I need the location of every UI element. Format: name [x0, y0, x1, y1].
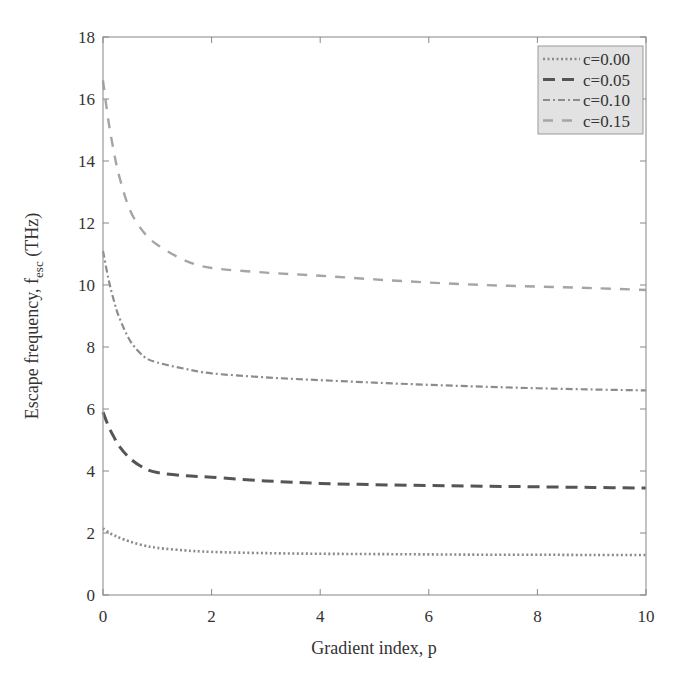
y-tick-label: 16: [78, 90, 95, 109]
legend-label: c=0.15: [583, 112, 630, 131]
line-chart: 0246810024681012141618 c=0.00c=0.05c=0.1…: [0, 0, 688, 682]
series-layer: [103, 80, 646, 555]
series-line-c-0-05: [103, 412, 646, 488]
series-line-c-0-10: [103, 251, 646, 391]
y-tick-label: 0: [87, 586, 96, 605]
legend: c=0.00c=0.05c=0.10c=0.15: [538, 46, 643, 134]
y-tick-label: 14: [78, 152, 96, 171]
y-axis-title: Escape frequency, fesc (THz): [22, 213, 46, 419]
y-tick-label: 10: [78, 276, 95, 295]
y-tick-label: 2: [87, 524, 96, 543]
x-tick-label: 8: [533, 607, 542, 626]
series-line-c-0-00: [103, 528, 646, 555]
x-tick-label: 2: [207, 607, 216, 626]
x-tick-label: 6: [425, 607, 434, 626]
y-tick-label: 4: [87, 462, 96, 481]
x-tick-label: 4: [316, 607, 325, 626]
y-tick-label: 18: [78, 28, 95, 47]
y-tick-label: 8: [87, 338, 96, 357]
legend-label: c=0.05: [583, 71, 630, 90]
y-tick-label: 12: [78, 214, 95, 233]
x-tick-label: 0: [99, 607, 108, 626]
x-tick-label: 10: [638, 607, 655, 626]
legend-label: c=0.10: [583, 91, 630, 110]
y-tick-label: 6: [87, 400, 96, 419]
legend-label: c=0.00: [583, 50, 630, 69]
x-axis-title: Gradient index, p: [311, 638, 436, 658]
